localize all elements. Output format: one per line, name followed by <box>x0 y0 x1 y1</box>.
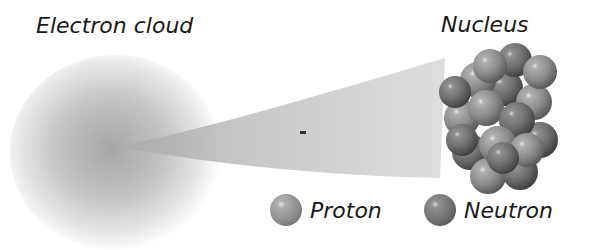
neutron-icon <box>424 194 456 226</box>
legend-neutron-label: Neutron <box>464 198 553 223</box>
electron-dot <box>300 131 306 134</box>
legend-proton: Proton <box>270 194 382 226</box>
nucleus-cluster <box>439 43 558 194</box>
zoom-wedge <box>118 58 445 178</box>
proton-icon <box>270 194 302 226</box>
legend-proton-label: Proton <box>310 198 382 223</box>
legend-neutron: Neutron <box>424 194 553 226</box>
